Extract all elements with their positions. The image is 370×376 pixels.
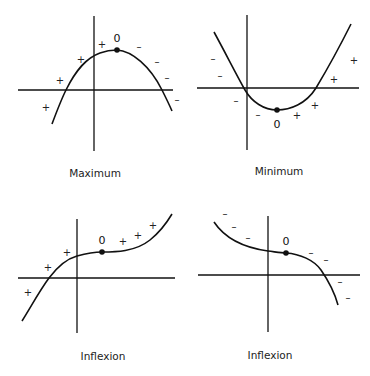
slope-sign: – <box>338 276 343 287</box>
slope-sign: + <box>77 54 85 65</box>
slope-sign: + <box>134 230 142 241</box>
stationary-label: 0 <box>114 32 121 45</box>
slope-sign: – <box>346 292 351 303</box>
slope-sign: + <box>330 74 338 85</box>
stationary-points-diagram: 0 + + + + – – – – 0 – – – – + + + + 0 + … <box>0 0 370 376</box>
slope-sign: + <box>98 39 106 50</box>
slope-sign: + <box>44 262 52 273</box>
slope-sign: + <box>119 236 127 247</box>
inflexion-falling-curve <box>214 222 338 305</box>
panel-maximum: 0 + + + + – – – – <box>18 16 180 151</box>
inflexion-point <box>283 250 289 256</box>
slope-sign: – <box>155 56 160 67</box>
slope-sign: – <box>246 232 251 243</box>
slope-sign: + <box>42 102 50 113</box>
stationary-label: 0 <box>274 118 281 131</box>
slope-sign: – <box>256 109 261 120</box>
slope-sign: + <box>56 75 64 86</box>
slope-sign: – <box>137 41 142 52</box>
panel-inflexion-rising: 0 + + + + + + <box>18 214 175 333</box>
slope-sign: – <box>232 221 237 232</box>
slope-sign: + <box>149 220 157 231</box>
slope-sign: – <box>165 72 170 83</box>
panel-minimum: 0 – – – – + + + + <box>197 15 359 150</box>
stationary-label: 0 <box>99 234 106 247</box>
slope-sign: + <box>293 110 301 121</box>
slope-sign: – <box>223 208 228 219</box>
caption-maximum: Maximum <box>69 167 121 179</box>
slope-sign: + <box>311 100 319 111</box>
slope-sign: – <box>324 254 329 265</box>
minimum-point <box>274 107 280 113</box>
diagram-svg: 0 + + + + – – – – 0 – – – – + + + + 0 + … <box>0 0 370 376</box>
slope-sign: – <box>175 94 180 105</box>
caption-inflexion-rising: Inflexion <box>81 350 126 362</box>
slope-sign: – <box>218 70 223 81</box>
slope-sign: + <box>63 247 71 258</box>
stationary-label: 0 <box>283 235 290 248</box>
slope-sign: + <box>24 287 32 298</box>
panel-inflexion-falling: 0 – – – – – – – <box>198 208 360 332</box>
slope-sign: – <box>211 53 216 64</box>
slope-sign: – <box>309 247 314 258</box>
slope-sign: – <box>234 95 239 106</box>
caption-minimum: Minimum <box>255 165 304 177</box>
caption-inflexion-falling: Inflexion <box>248 349 293 361</box>
maximum-point <box>114 47 120 53</box>
inflexion-point <box>99 249 105 255</box>
slope-sign: + <box>350 55 358 66</box>
